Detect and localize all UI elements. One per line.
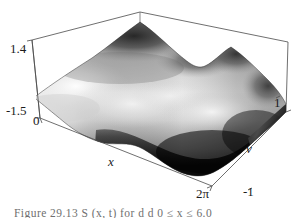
v-axis-title: v xyxy=(246,142,252,155)
x-axis-max-tick-label: 2π xyxy=(196,187,209,200)
v-axis-max-tick-label: 1 xyxy=(274,96,281,109)
figure-caption: Figure 29.13 S (x, t) for d d 0 ≤ x ≤ 6.… xyxy=(14,207,302,218)
x-axis-title: x xyxy=(108,155,114,168)
figure-3d-surface-plot: 1.4 -1.5 0 2π 1 -1 x v Figure 29.13 S (x… xyxy=(0,0,302,218)
z-axis-min-tick-label: -1.5 xyxy=(6,104,27,117)
z-axis-max-tick-label: 1.4 xyxy=(10,42,26,55)
x-axis-min-tick-label: 0 xyxy=(33,114,40,127)
surface-plot-canvas xyxy=(0,0,302,218)
tick-mark-v-max xyxy=(286,110,291,112)
tick-mark-z-max xyxy=(27,40,32,41)
v-axis-min-tick-label: -1 xyxy=(243,185,254,198)
